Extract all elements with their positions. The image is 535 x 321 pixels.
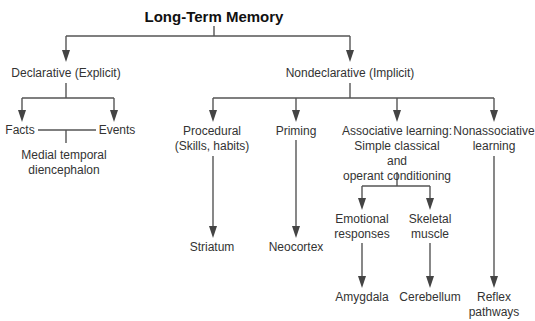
reflex-line-2: pathways [469, 305, 520, 320]
procedural-line-2: (Skills, habits) [175, 139, 250, 154]
associative-line-3: and [342, 154, 452, 169]
skeletal-line-2: muscle [409, 227, 452, 242]
associative-line-2: Simple classical [342, 139, 452, 154]
emotional-line-2: responses [334, 227, 389, 242]
reflex-line-1: Reflex [469, 290, 520, 305]
node-nondeclarative: Nondeclarative (Implicit) [286, 66, 415, 81]
associative-line-1: Associative learning: [342, 124, 452, 139]
node-facts: Facts [5, 123, 34, 138]
nonassociative-line-1: Nonassociative [453, 124, 534, 139]
emotional-line-1: Emotional [334, 212, 389, 227]
node-amygdala: Amygdala [335, 290, 388, 305]
node-events: Events [99, 123, 136, 138]
associative-line-4: operant conditioning [342, 169, 452, 184]
node-striatum: Striatum [190, 240, 235, 255]
node-skeletal: Skeletal muscle [409, 212, 452, 242]
region-line-1: Medial temporal [21, 148, 106, 163]
node-cerebellum: Cerebellum [399, 290, 460, 305]
region-line-2: diencephalon [21, 163, 106, 178]
node-procedural: Procedural (Skills, habits) [175, 124, 250, 154]
node-medial-temporal: Medial temporal diencephalon [21, 148, 106, 178]
node-reflex-pathways: Reflex pathways [469, 290, 520, 320]
node-associative: Associative learning: Simple classical a… [342, 124, 452, 184]
node-neocortex: Neocortex [269, 240, 324, 255]
diagram-title: Long-Term Memory [145, 8, 284, 26]
node-nonassociative: Nonassociative learning [453, 124, 534, 154]
node-priming: Priming [276, 124, 317, 139]
nonassociative-line-2: learning [453, 139, 534, 154]
node-declarative: Declarative (Explicit) [11, 66, 120, 81]
node-emotional: Emotional responses [334, 212, 389, 242]
procedural-line-1: Procedural [175, 124, 250, 139]
skeletal-line-1: Skeletal [409, 212, 452, 227]
